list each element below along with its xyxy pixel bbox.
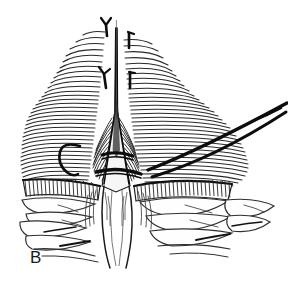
surgical-illustration (0, 0, 288, 283)
panel-label: B (30, 249, 41, 266)
figure-panel: B (0, 0, 288, 283)
